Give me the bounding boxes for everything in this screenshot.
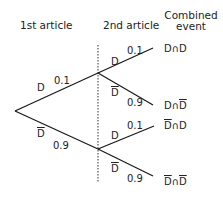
combined-event-3-a: D [164,120,172,131]
combined-event-1: D∩D [164,43,187,54]
combined-event-4-b: D [179,176,187,187]
first-lower-event: D [37,128,45,139]
header-combined-event: Combined event [161,10,221,32]
combined-event-4-a: D [164,176,172,187]
combined-event-2-b: D [179,100,187,111]
lower-down-prob: 0.9 [127,173,143,184]
header-second-article: 2nd article [103,20,159,31]
branch-upper-down [98,73,153,105]
combined-event-4: D∩D [164,176,187,187]
lower-up-event: D [111,130,119,141]
header-combined-line2: event [161,21,221,32]
combined-event-1-a: D [164,43,172,54]
upper-up-event: D [111,56,119,67]
combined-event-1-b: D [179,43,187,54]
intersection-symbol: ∩ [172,100,179,111]
upper-up-prob: 0.1 [127,45,143,56]
intersection-symbol: ∩ [172,43,179,54]
branch-upper-up [98,48,153,73]
first-lower-prob: 0.9 [53,140,69,151]
header-first-article: 1st article [20,20,73,31]
upper-down-prob: 0.9 [127,97,143,108]
combined-event-3-b: D [179,120,187,131]
upper-down-event: D [111,87,119,98]
combined-event-2-a: D [164,100,172,111]
combined-event-2: D∩D [164,100,187,111]
intersection-symbol: ∩ [172,176,179,187]
first-upper-prob: 0.1 [54,75,70,86]
intersection-symbol: ∩ [172,120,179,131]
lower-up-prob: 0.1 [127,120,143,131]
branch-lower-down [98,149,153,176]
branch-lower-up [98,126,154,149]
lower-down-event: D [111,163,119,174]
combined-event-3: D∩D [164,120,187,131]
first-upper-event: D [37,82,45,93]
